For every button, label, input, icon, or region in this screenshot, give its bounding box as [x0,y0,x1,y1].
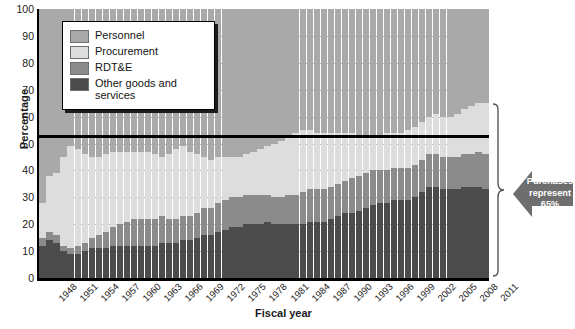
annotation-line-2: represent [526,188,574,200]
bar-segment [468,9,474,106]
bar-segment [475,187,481,278]
legend-label: RDT&E [95,61,132,74]
bar-segment [187,240,193,278]
x-axis-label: Fiscal year [255,307,312,319]
bar-segment [215,203,221,233]
bar-segment [426,154,432,186]
bar-segment [292,224,298,278]
bar-1981 [271,9,277,278]
bar-segment [152,246,158,278]
bar-segment [356,211,362,278]
bar-segment [124,222,130,246]
bar-segment [370,170,376,205]
bar-segment [271,224,277,278]
bar-1978 [250,9,256,278]
bar-1998 [391,9,397,278]
bar-1997 [384,9,390,278]
bar-segment [468,106,474,154]
bar-segment [307,189,313,221]
bar-segment [138,152,144,219]
bar-segment [321,133,327,189]
bar-segment [166,243,172,278]
bar-segment [67,254,73,278]
x-tick-label: 1966 [182,281,205,304]
bar-segment [39,203,45,238]
legend-item: RDT&E [70,61,205,76]
bar-segment [138,246,144,278]
bar-segment [475,152,481,187]
x-tick-label: 1999 [414,281,437,304]
bar-segment [384,203,390,278]
bar-segment [398,200,404,278]
bar-1975 [229,9,235,278]
bar-segment [335,9,341,133]
y-tick-label: 60 [8,111,34,123]
chart-root: Percentage 0102030405060708090100 Person… [0,0,575,329]
bar-segment [328,9,334,133]
bar-segment [264,146,270,194]
bar-segment [271,144,277,198]
bar-segment [447,189,453,278]
bar-2001 [412,9,418,278]
bar-segment [103,232,109,248]
bar-segment [145,219,151,246]
x-tick-label: 1951 [77,281,100,304]
x-tick-label: 1948 [56,281,79,304]
bar-1984 [292,9,298,278]
bar-segment [426,187,432,278]
bar-segment [180,240,186,278]
bar-1980 [264,9,270,278]
y-tick-label: 90 [8,30,34,42]
x-axis-ticks: 1948195119541957196019631966196919721975… [37,281,487,327]
bar-2003 [426,9,432,278]
bar-segment [222,157,228,200]
bar-segment [117,224,123,246]
x-tick-label: 1960 [140,281,163,304]
bar-segment [285,224,291,278]
bar-segment [335,184,341,216]
bar-segment [384,170,390,202]
x-tick-label: 1993 [372,281,395,304]
bar-segment [349,178,355,213]
bar-segment [328,133,334,187]
bar-segment [46,240,52,278]
bar-segment [145,152,151,219]
bar-segment [46,9,52,176]
y-tick-label: 40 [8,164,34,176]
bar-1985 [300,9,306,278]
bar-segment [370,9,376,135]
bar-segment [131,246,137,278]
bar-segment [461,109,467,155]
annotation-line-1: Purchases [526,176,574,188]
bar-segment [328,187,334,219]
bar-segment [229,197,235,227]
bar-segment [60,157,66,246]
annotation-text: Purchases represent 65% [526,176,574,211]
bar-segment [475,9,481,103]
bar-1994 [363,9,369,278]
bar-segment [292,9,298,133]
bar-segment [419,192,425,278]
bar-segment [194,213,200,237]
bar-segment [243,195,249,225]
legend-label: Other goods and services [95,77,205,102]
bar-1991 [342,9,348,278]
reference-line [37,135,489,138]
bar-segment [461,9,467,109]
bar-segment [300,9,306,130]
bar-segment [370,205,376,278]
bar-segment [342,213,348,278]
legend: PersonnelProcurementRDT&EOther goods and… [62,21,215,110]
bar-segment [173,149,179,219]
bar-segment [342,133,348,181]
y-tick-label: 50 [8,138,34,150]
bar-segment [96,157,102,235]
bar-segment [349,133,355,179]
bar-segment [278,224,284,278]
bar-segment [461,154,467,186]
bar-segment [194,238,200,278]
bar-segment [208,160,214,208]
bar-segment [412,127,418,165]
bar-segment [412,165,418,197]
bar-segment [314,133,320,189]
